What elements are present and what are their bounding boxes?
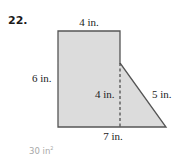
composite-shape — [58, 31, 166, 127]
label-left: 6 in. — [32, 72, 52, 84]
label-bottom: 7 in. — [103, 130, 123, 142]
label-hypotenuse: 5 in. — [152, 88, 172, 100]
label-top: 4 in. — [79, 16, 99, 28]
answer-value: 30 in — [29, 146, 50, 156]
answer-text: 30 in2 — [29, 145, 53, 156]
composite-figure: 4 in. 6 in. 4 in. 5 in. 7 in. — [0, 0, 182, 159]
answer-exponent: 2 — [50, 145, 53, 151]
label-height: 4 in. — [95, 88, 115, 100]
